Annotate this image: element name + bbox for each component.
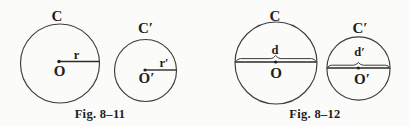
center-dot-O <box>274 60 277 63</box>
geometry-diagram: C r O C′ r′ O′ Fig. 8–11 C d O <box>0 0 409 126</box>
circle-C-label: C <box>52 8 63 24</box>
figure-8-12: C d O C′ d′ O′ Fig. 8–12 <box>235 8 390 121</box>
center-label-O: O <box>270 65 282 81</box>
figure-8-11: C r O C′ r′ O′ Fig. 8–11 <box>21 8 177 121</box>
diameter-label-dprime: d′ <box>354 45 364 59</box>
circle-Cprime-label: C′ <box>352 20 367 36</box>
center-label-O: O <box>54 63 66 79</box>
figure-caption-8-12: Fig. 8–12 <box>289 107 340 121</box>
radius-label-r: r <box>74 48 80 62</box>
textbook-figure-panel: C r O C′ r′ O′ Fig. 8–11 C d O <box>0 0 409 126</box>
circle-C-label: C <box>270 8 281 24</box>
diameter-label-d: d <box>272 43 279 57</box>
center-dot-Oprime <box>357 67 360 70</box>
center-label-Oprime: O′ <box>354 71 370 87</box>
radius-label-rprime: r′ <box>159 56 168 70</box>
circle-Cprime-label: C′ <box>138 20 153 36</box>
figure-caption-8-11: Fig. 8–11 <box>75 107 126 121</box>
center-label-Oprime: O′ <box>139 70 155 86</box>
